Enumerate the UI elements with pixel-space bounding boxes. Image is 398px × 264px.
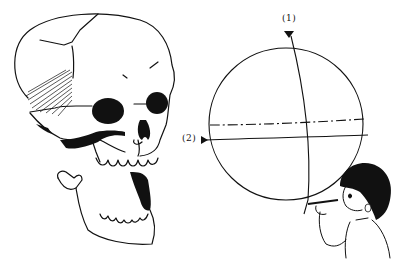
marker-2-label: (2) — [182, 133, 196, 143]
illustration-canvas: (1) (2) — [0, 0, 398, 264]
child-figure — [0, 0, 398, 264]
marker-1-label: (1) — [282, 13, 296, 23]
